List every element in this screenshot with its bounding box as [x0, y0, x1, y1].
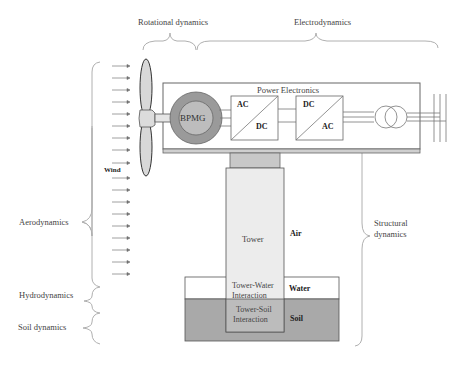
rotational-brace: [143, 33, 196, 50]
hydrodynamics-brace: [84, 287, 100, 313]
label-aerodynamics: Aerodynamics: [19, 217, 69, 227]
label-wind: Wind: [104, 166, 121, 174]
label-soil-dynamics: Soil dynamics: [18, 322, 66, 332]
label-rotational-dynamics: Rotational dynamics: [138, 17, 208, 27]
structural-dynamics-brace: [352, 136, 370, 346]
label-water: Water: [289, 284, 310, 293]
label-conv1-dc: DC: [256, 122, 268, 131]
soil-dynamics-brace: [83, 313, 100, 344]
label-structural: Structural: [374, 218, 408, 228]
rotor-hub: [139, 110, 155, 127]
label-tower: Tower: [242, 234, 264, 244]
label-conv2-dc: DC: [303, 100, 315, 109]
aerodynamics-brace-lower: [82, 222, 100, 287]
tower-adapter: [230, 153, 280, 168]
label-tower-water-1: Tower-Water: [232, 281, 274, 290]
label-hydrodynamics: Hydrodynamics: [19, 290, 73, 300]
label-power-electronics: Power Electronics: [257, 85, 319, 95]
label-tower-soil-1: Tower-Soil: [236, 305, 272, 314]
label-tower-soil-2: Interaction: [233, 315, 268, 324]
nacelle-base: [163, 149, 420, 153]
label-air: Air: [290, 229, 302, 238]
label-dynamics: dynamics: [374, 229, 407, 239]
label-tower-water-2: Interaction: [232, 291, 267, 300]
label-soil: Soil: [290, 314, 303, 323]
electrodynamics-brace: [197, 33, 438, 50]
rotor-blade-top: [140, 59, 152, 117]
label-conv2-ac: AC: [322, 122, 334, 131]
label-electrodynamics: Electrodynamics: [294, 17, 351, 27]
aerodynamics-brace: [82, 62, 100, 236]
label-conv1-ac: AC: [237, 100, 249, 109]
label-bpmg: BPMG: [180, 113, 206, 123]
diagram-canvas: [0, 0, 462, 367]
